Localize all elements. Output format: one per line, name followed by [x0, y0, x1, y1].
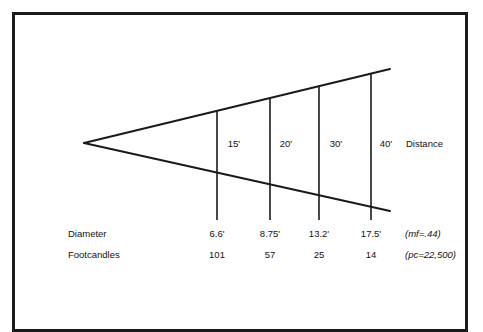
distance-label-20ft: 20' [280, 139, 292, 149]
distance-label-30ft: 30' [330, 139, 342, 149]
footcandles-value-20ft: 57 [265, 250, 276, 260]
beam-upper-edge [84, 69, 390, 143]
diameter-value-40ft: 17.5' [361, 229, 381, 239]
footcandles-value-15ft: 101 [209, 250, 225, 260]
distance-row-label: Distance [406, 139, 443, 149]
footcandles-row-label: Footcandles [68, 250, 120, 260]
diameter-row-label: Diameter [68, 229, 107, 239]
peak-candlepower-note: (pc=22,500) [405, 250, 456, 260]
footcandles-value-30ft: 25 [314, 250, 325, 260]
diameter-value-20ft: 8.75' [260, 229, 280, 239]
beam-lower-edge [84, 143, 390, 211]
diameter-value-15ft: 6.6' [209, 229, 224, 239]
distance-label-15ft: 15' [228, 139, 240, 149]
diameter-value-30ft: 13.2' [309, 229, 329, 239]
distance-label-40ft: 40' [380, 139, 392, 149]
footcandles-value-40ft: 14 [366, 250, 377, 260]
maintenance-factor-note: (mf=.44) [405, 229, 441, 239]
